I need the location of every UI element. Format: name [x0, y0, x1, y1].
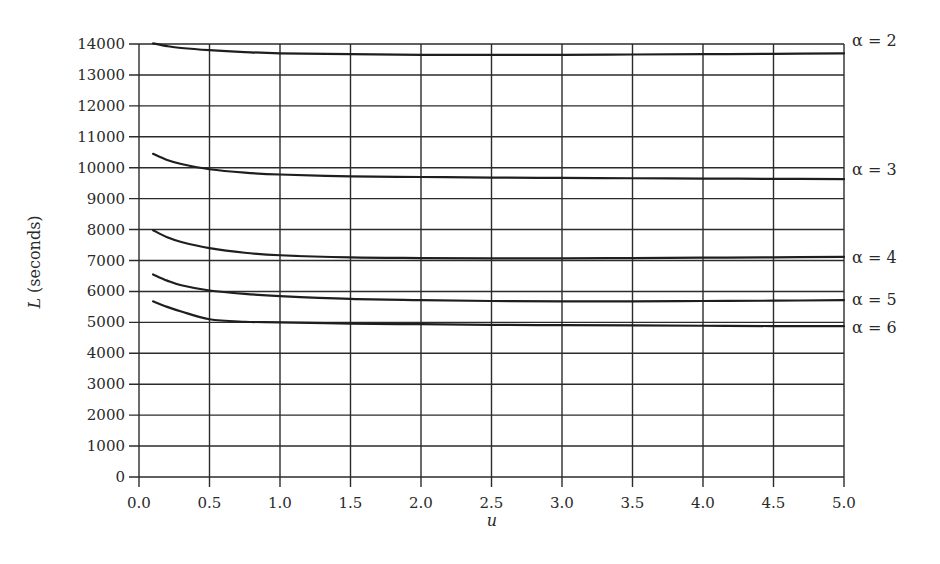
y-tick-label: 10000: [77, 159, 125, 177]
y-tick-label: 3000: [87, 375, 125, 393]
x-tick-label: 2.0: [409, 494, 433, 512]
x-tick-label: 5.0: [832, 494, 856, 512]
y-tick-label: 2000: [87, 406, 125, 424]
x-tick-label: 4.5: [762, 494, 786, 512]
x-tick-label: 1.5: [339, 494, 363, 512]
y-tick-label: 13000: [77, 66, 125, 84]
y-tick-label: 8000: [87, 221, 125, 239]
x-tick-label: 0.0: [127, 494, 151, 512]
grid-lines: [129, 44, 844, 487]
y-tick-label: 9000: [87, 190, 125, 208]
y-tick-label: 1000: [87, 437, 125, 455]
x-tick-label: 0.5: [198, 494, 222, 512]
x-tick-label: 3.5: [621, 494, 645, 512]
series-curve-alpha-4: [153, 230, 844, 258]
y-axis-title: L (seconds): [25, 215, 44, 309]
y-axis-ticks: 0100020003000400050006000700080009000100…: [77, 35, 125, 486]
series-label-alpha-4: α = 4: [852, 248, 897, 267]
series-label-alpha-3: α = 3: [852, 160, 897, 179]
series-curve-alpha-3: [153, 154, 844, 179]
y-tick-label: 5000: [87, 313, 125, 331]
y-tick-label: 7000: [87, 252, 125, 270]
y-axis-title-unit: (seconds): [25, 215, 44, 298]
y-tick-label: 14000: [77, 35, 125, 53]
series-curves: [153, 43, 844, 326]
series-label-alpha-6: α = 6: [852, 318, 897, 337]
series-label-alpha-5: α = 5: [852, 290, 897, 309]
series-curve-alpha-5: [153, 274, 844, 301]
y-tick-label: 6000: [87, 282, 125, 300]
series-label-alpha-2: α = 2: [852, 31, 897, 50]
series-labels: α = 2α = 3α = 4α = 5α = 6: [852, 31, 897, 337]
y-tick-label: 12000: [77, 97, 125, 115]
x-axis-title: u: [487, 511, 497, 530]
x-tick-label: 3.0: [550, 494, 574, 512]
y-axis-title-symbol: L: [25, 298, 44, 310]
y-tick-label: 0: [115, 468, 125, 486]
x-tick-label: 2.5: [480, 494, 504, 512]
series-curve-alpha-2: [153, 43, 844, 54]
x-axis-ticks: 0.00.51.01.52.02.53.03.54.04.55.0: [127, 494, 856, 512]
x-tick-label: 4.0: [691, 494, 715, 512]
x-tick-label: 1.0: [268, 494, 292, 512]
y-tick-label: 4000: [87, 344, 125, 362]
line-chart: 0100020003000400050006000700080009000100…: [0, 0, 940, 564]
y-tick-label: 11000: [77, 128, 125, 146]
